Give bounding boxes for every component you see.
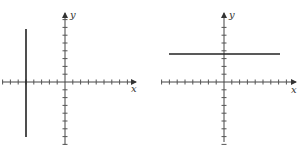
left-plot: x y (2, 9, 137, 145)
x-axis-label: x (131, 83, 137, 94)
y-axis-label: y (69, 9, 76, 20)
right-plot: x y (161, 9, 297, 144)
x-axis-label: x (291, 84, 297, 95)
y-axis-label: y (228, 9, 235, 20)
figure-canvas: x y x y (0, 0, 297, 147)
